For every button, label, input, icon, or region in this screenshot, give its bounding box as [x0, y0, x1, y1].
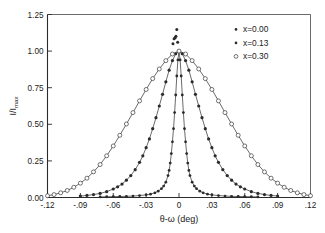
y-axis-title: I/Imax — [8, 95, 19, 115]
data-point-filled — [250, 190, 253, 193]
data-point-filled — [206, 193, 209, 196]
data-point-filled — [99, 196, 102, 199]
data-point-filled — [105, 190, 108, 193]
data-point-filled — [149, 193, 152, 196]
data-point-open — [230, 122, 234, 126]
data-point-filled — [182, 111, 185, 114]
data-point-filled — [187, 69, 190, 72]
data-point-filled — [174, 94, 177, 97]
y-tick-label: 1.25 — [28, 11, 44, 20]
data-point-filled — [181, 94, 184, 97]
data-point-filled — [180, 75, 183, 78]
legend-marker-filled-dot — [235, 42, 238, 45]
data-point-open — [289, 188, 293, 192]
data-point-filled — [92, 193, 95, 196]
data-point-open — [85, 176, 89, 180]
data-point-filled — [151, 127, 154, 130]
data-point-open — [52, 193, 56, 197]
x-tick-label: .12 — [305, 201, 317, 210]
data-point-filled — [160, 187, 163, 190]
data-point-filled — [125, 179, 128, 182]
data-point-open — [144, 87, 148, 91]
data-point-filled — [250, 195, 253, 198]
data-point-open — [170, 52, 174, 56]
data-point-open — [302, 193, 306, 197]
data-point-filled — [210, 146, 213, 149]
data-point-filled — [237, 195, 240, 198]
data-point-filled — [134, 168, 137, 171]
caption-remnant — [2, 226, 202, 233]
data-point-filled — [170, 152, 173, 155]
data-point-filled — [132, 195, 135, 198]
data-point-filled — [195, 187, 198, 190]
data-point-open — [276, 181, 280, 185]
data-point-filled — [138, 194, 141, 197]
data-point-filled — [263, 193, 266, 196]
data-point-open — [249, 154, 253, 158]
data-point-filled — [112, 195, 115, 198]
data-point-filled — [224, 195, 227, 198]
data-point-filled — [230, 179, 233, 182]
x-tick-label: .06 — [239, 201, 251, 210]
data-point-filled — [176, 41, 179, 44]
data-point-open — [269, 176, 273, 180]
data-point-open — [256, 163, 260, 167]
legend-marker-filled-dot — [235, 28, 238, 31]
data-point-filled — [221, 168, 224, 171]
data-point-filled — [256, 192, 259, 195]
series-markers-x-0-13 — [79, 50, 279, 198]
data-point-filled — [175, 28, 178, 31]
x-tick-label: -.03 — [139, 201, 154, 210]
data-point-open — [309, 194, 313, 198]
data-point-open — [197, 67, 201, 71]
data-point-open — [92, 170, 96, 174]
data-point-open — [262, 170, 266, 174]
data-point-filled — [171, 140, 174, 143]
data-point-open — [177, 49, 181, 53]
data-point-filled — [191, 181, 194, 184]
data-point-filled — [164, 181, 167, 184]
data-point-open — [151, 77, 155, 81]
legend-label: x=0.00 — [243, 24, 269, 34]
data-point-filled — [217, 194, 220, 197]
legend-entry-x-0-00[interactable]: x=0.00 — [235, 24, 269, 34]
data-point-filled — [185, 152, 188, 155]
labels-layer: 0.000.250.500.751.001.25-.12-.09-.06-.03… — [8, 11, 317, 224]
data-point-filled — [112, 187, 115, 190]
data-point-filled — [105, 195, 108, 198]
data-point-open — [111, 144, 115, 148]
data-point-filled — [157, 190, 160, 193]
data-point-filled — [116, 185, 119, 188]
series-curve-x-0-13 — [80, 51, 277, 196]
data-point-filled — [234, 182, 237, 185]
data-point-filled — [162, 185, 165, 188]
x-tick-label: -.09 — [73, 201, 88, 210]
data-point-open — [65, 188, 69, 192]
data-point-open — [236, 133, 240, 137]
data-point-filled — [175, 75, 178, 78]
data-point-filled — [207, 137, 210, 140]
data-point-open — [124, 122, 128, 126]
legend-entry-x-0-30[interactable]: x=0.30 — [234, 51, 269, 61]
data-point-open — [184, 52, 188, 56]
series-markers-x-0-30 — [46, 49, 313, 198]
data-point-filled — [269, 194, 272, 197]
data-point-filled — [200, 116, 203, 119]
series-curve-x-0-00 — [100, 51, 258, 197]
data-point-filled — [173, 111, 176, 114]
data-point-filled — [194, 93, 197, 96]
data-point-filled — [171, 42, 174, 45]
data-point-filled — [158, 104, 161, 107]
data-point-filled — [172, 127, 175, 130]
series-markers-outlier-points — [171, 28, 179, 45]
legend-entry-x-0-13[interactable]: x=0.13 — [235, 38, 269, 48]
data-point-open — [118, 133, 122, 137]
legend-layer: x=0.00x=0.13x=0.30 — [234, 24, 269, 61]
data-point-filled — [189, 174, 192, 177]
curves-layer — [48, 51, 311, 197]
data-point-filled — [198, 190, 201, 193]
data-point-filled — [197, 104, 200, 107]
data-point-filled — [226, 174, 229, 177]
data-point-open — [72, 185, 76, 189]
data-point-filled — [257, 196, 260, 199]
